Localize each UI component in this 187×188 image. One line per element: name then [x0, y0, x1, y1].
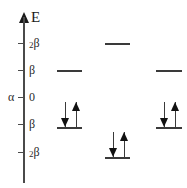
spin-arrowhead-up-icon: [171, 102, 179, 111]
tick-symbol-minus-beta: β: [29, 117, 35, 131]
level-middle-antibonding: [105, 43, 130, 45]
axis-tick-minus-beta: [18, 124, 25, 125]
spin-arrowhead-down-icon: [61, 118, 69, 127]
axis-tick-plus-2beta: [18, 43, 25, 44]
tick-symbol-zero: 0: [29, 90, 35, 104]
axis-tick-label-minus-2beta: 2β: [29, 146, 40, 159]
spin-arrow-down-left-bonding: [61, 102, 70, 127]
spin-arrow-up-left-bonding: [72, 102, 81, 127]
spin-arrow-down-middle-bonding: [109, 132, 118, 157]
level-right-antibonding: [156, 70, 182, 72]
level-left-antibonding: [57, 70, 82, 72]
spin-arrow-up-middle-bonding: [120, 132, 129, 157]
alpha-origin-label: α: [8, 91, 14, 103]
level-middle-bonding: [105, 157, 130, 159]
spin-arrow-up-right-bonding: [171, 102, 180, 127]
tick-symbol-plus-2beta: β: [34, 36, 40, 50]
axis-tick-label-zero: 0: [29, 91, 35, 104]
axis-tick-label-minus-beta: β: [29, 118, 35, 131]
axis-tick-minus-2beta: [18, 152, 25, 153]
axis-tick-label-plus-2beta: 2β: [29, 37, 40, 50]
spin-arrowhead-up-icon: [120, 132, 128, 141]
spin-arrowhead-up-icon: [72, 102, 80, 111]
axis-tick-zero: [18, 97, 25, 98]
level-left-bonding: [57, 127, 82, 129]
spin-arrowhead-down-icon: [109, 148, 117, 157]
axis-label-energy: E: [31, 10, 40, 25]
energy-axis-line: [23, 17, 25, 183]
spin-arrow-down-right-bonding: [160, 102, 169, 127]
energy-level-diagram: E 2β β 0 β 2β α: [0, 0, 187, 188]
axis-tick-label-plus-beta: β: [29, 64, 35, 77]
tick-symbol-plus-beta: β: [29, 63, 35, 77]
axis-tick-plus-beta: [18, 70, 25, 71]
spin-arrowhead-down-icon: [160, 118, 168, 127]
level-right-bonding: [156, 127, 182, 129]
tick-symbol-minus-2beta: β: [34, 145, 40, 159]
